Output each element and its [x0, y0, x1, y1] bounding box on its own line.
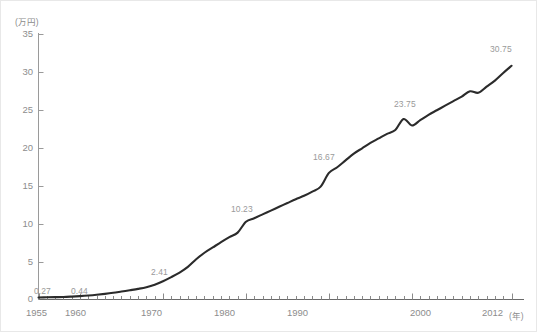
line-chart: (万円) 35 30 25 20 15 10 5 0 1955 1960 197… [0, 0, 537, 332]
y-tick-marks [39, 35, 44, 263]
chart-canvas [1, 1, 537, 332]
x-tick-marks [40, 294, 513, 300]
series-line-average [39, 66, 512, 298]
axes-group [39, 33, 525, 300]
